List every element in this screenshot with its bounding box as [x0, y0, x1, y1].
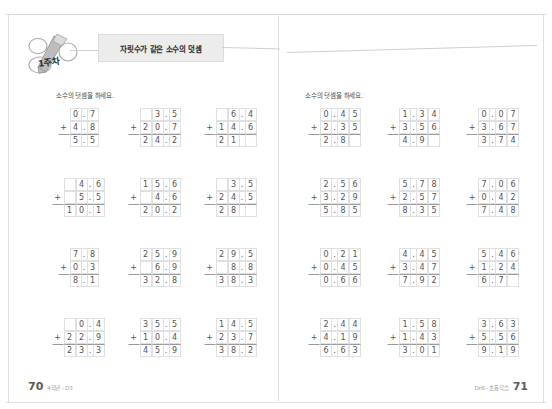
digit-cell: 4 — [228, 318, 240, 331]
sum-row: 6.63 — [308, 344, 361, 357]
addition-problem: 0.4+22.923.3 — [52, 318, 105, 388]
scan-edge-left — [8, 14, 9, 403]
digit-cell: 7 — [399, 274, 411, 287]
digit-cell: 7 — [70, 248, 82, 261]
addend-row-2: +5.56 — [466, 331, 519, 344]
addition-problem: 14.5+23.738.2 — [204, 318, 257, 388]
digit-cell: 2 — [216, 248, 228, 261]
digit-cell: 5 — [87, 134, 99, 147]
digit-cell: 5 — [76, 191, 88, 204]
digit-cell: 9 — [416, 134, 428, 147]
digit-cell: 3 — [87, 261, 99, 274]
addend-row-2: +24.5 — [204, 191, 257, 204]
operator-spacer — [387, 108, 399, 121]
addend-row-1: 0.4 — [52, 318, 105, 331]
digit-cell: 6 — [428, 121, 440, 134]
operator-spacer — [58, 274, 70, 287]
digit-cell: 1 — [478, 261, 490, 274]
digit-cell: 1 — [87, 274, 99, 287]
addend-row-1: 0.7 — [58, 108, 99, 121]
digit-cell: 4 — [93, 318, 105, 331]
digit-cell: 2 — [152, 274, 164, 287]
digit-cell: 0 — [152, 204, 164, 217]
operator-spacer — [387, 178, 399, 191]
addend-row-1: 29.5 — [204, 248, 257, 261]
operator-spacer — [387, 318, 399, 331]
addition-problem: 0.45+2.352.8 — [308, 108, 361, 178]
digit-cell: 4 — [399, 248, 411, 261]
digit-cell: 1 — [495, 344, 507, 357]
digit-cell: 9 — [349, 331, 361, 344]
addend-row-2: +2.35 — [308, 121, 361, 134]
digit-cell: 7 — [507, 121, 519, 134]
digit-cell: 5 — [245, 248, 257, 261]
digit-cell: 6 — [507, 178, 519, 191]
digit-cell: 2 — [169, 204, 181, 217]
operator-spacer — [204, 318, 216, 331]
operator-plus: + — [308, 121, 320, 134]
digit-cell: 2 — [140, 121, 152, 134]
operator-spacer — [387, 344, 399, 357]
digit-cell: 4 — [169, 331, 181, 344]
sum-row: 5.85 — [308, 204, 361, 217]
digit-cell: 7 — [478, 178, 490, 191]
operator-spacer — [466, 274, 478, 287]
digit-cell: 5 — [349, 108, 361, 121]
operator-spacer — [204, 344, 216, 357]
addend-row-1: 1.58 — [387, 318, 440, 331]
digit-cell: 6 — [169, 178, 181, 191]
digit-cell: 2 — [320, 134, 332, 147]
digit-cell: 9 — [228, 248, 240, 261]
digit-cell: 3 — [416, 204, 428, 217]
operator-plus: + — [387, 191, 399, 204]
sum-row: 4.9 — [387, 134, 440, 147]
digit-cell: 2 — [76, 331, 88, 344]
addend-row-2: +4.8 — [58, 121, 99, 134]
digit-cell: 3 — [478, 134, 490, 147]
right-page-number: 71 — [513, 380, 528, 393]
digit-cell: 3 — [216, 344, 228, 357]
operator-spacer — [128, 344, 140, 357]
digit-cell: 4 — [76, 178, 88, 191]
digit-cell: 9 — [169, 248, 181, 261]
addend-row-1: 4.6 — [52, 178, 105, 191]
operator-spacer — [204, 204, 216, 217]
addend-row-1: 14.5 — [204, 318, 257, 331]
addend-row-1: 7.06 — [466, 178, 519, 191]
digit-cell: 9 — [349, 191, 361, 204]
digit-cell: 0 — [76, 318, 88, 331]
addend-row-2: +1.24 — [466, 261, 519, 274]
digit-cell: 3 — [416, 108, 428, 121]
addition-problem: 2.44+4.196.63 — [308, 318, 361, 388]
digit-cell: 0 — [320, 248, 332, 261]
digit-cell: 2 — [495, 261, 507, 274]
digit-cell: 4 — [70, 121, 82, 134]
digit-cell: 3 — [245, 274, 257, 287]
operator-plus: + — [466, 191, 478, 204]
digit-cell-empty — [216, 261, 228, 274]
operator-plus: + — [308, 331, 320, 344]
addition-problem: 25.9+6.932.8 — [128, 248, 181, 318]
digit-cell: 5 — [93, 191, 105, 204]
addition-problem: 15.6+4.620.2 — [128, 178, 181, 248]
operator-spacer — [204, 178, 216, 191]
digit-cell: 5 — [245, 318, 257, 331]
digit-cell: 7 — [495, 134, 507, 147]
digit-cell: 0 — [478, 108, 490, 121]
sum-row: 20.2 — [128, 204, 181, 217]
digit-cell: 5 — [399, 178, 411, 191]
addend-row-2: +10.4 — [128, 331, 181, 344]
digit-cell: 2 — [428, 274, 440, 287]
digit-cell: 6 — [320, 344, 332, 357]
digit-cell: 8 — [337, 204, 349, 217]
sum-row: 0.66 — [308, 274, 361, 287]
digit-cell: 4 — [152, 134, 164, 147]
digit-cell: 6 — [495, 121, 507, 134]
digit-cell: 7 — [87, 108, 99, 121]
digit-cell: 4 — [152, 191, 164, 204]
addition-problem: 7.06+0.427.48 — [466, 178, 519, 248]
digit-cell: 1 — [428, 344, 440, 357]
digit-cell: 3 — [478, 318, 490, 331]
operator-plus: + — [466, 331, 478, 344]
digit-cell: 6 — [507, 331, 519, 344]
